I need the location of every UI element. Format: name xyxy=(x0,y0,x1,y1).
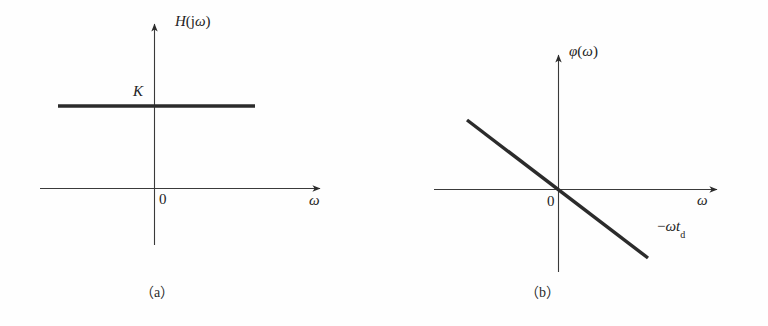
y-axis-label-phase: φ(ω) xyxy=(569,44,598,59)
magnitude-level-label-k: K xyxy=(133,84,143,99)
phase-slope-omega: ω xyxy=(665,218,676,234)
panel-magnitude-response: H(jω) K 0 ω （a） xyxy=(0,0,384,326)
panel-phase-response: φ(ω) 0 ω −ωtd （b） xyxy=(384,0,768,326)
y-axis-label-function-a: H xyxy=(175,13,186,29)
y-axis-label-omega-b: ω xyxy=(582,43,593,59)
panel-a-plot xyxy=(0,0,384,326)
panel-caption-a: （a） xyxy=(140,281,174,301)
panel-caption-b: （b） xyxy=(525,281,560,301)
origin-label-a: 0 xyxy=(159,192,167,207)
phase-slope-label: −ωtd xyxy=(657,219,685,237)
x-axis-label-a: ω xyxy=(309,193,320,208)
x-axis-label-b: ω xyxy=(697,193,708,208)
origin-label-b: 0 xyxy=(547,194,555,209)
figure-root: H(jω) K 0 ω （a） φ(ω) xyxy=(0,0,768,326)
y-axis-label-magnitude: H(jω) xyxy=(175,14,211,29)
y-axis-label-close-paren-a: ) xyxy=(206,13,211,29)
phase-slope-subscript: d xyxy=(680,229,685,240)
y-axis-label-close-paren-b: ) xyxy=(593,43,598,59)
y-axis-label-omega-a: ω xyxy=(195,13,206,29)
